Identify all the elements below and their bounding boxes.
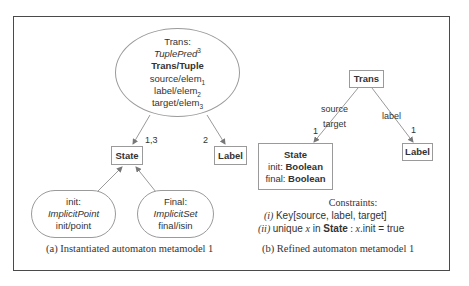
final-node-pred: ImplicitSet [154,208,198,220]
edge-mult-state: 1 [313,126,318,136]
trans-node-pred: TuplePred3 [154,48,201,60]
trans-node-row-label: label/elem2 [154,85,201,97]
constraints-title: Constraints: [258,196,448,209]
trans-box-b: Trans [349,70,384,88]
state-box-b-title: State [284,149,307,161]
trans-node-name: Trans: [164,36,191,48]
state-box-a: State [111,146,143,165]
edge-b-trans-state [314,88,358,142]
label-box-a: Label [214,146,247,165]
init-node-name: init: [66,196,81,208]
state-box-b: State init: Boolean final: Boolean [258,143,333,190]
init-implicitpoint-node: init: ImplicitPoint init/point [31,190,116,238]
edge-label-2: 2 [203,135,208,145]
init-node-mapping: init/point [56,220,91,232]
final-node-mapping: final/isin [158,220,192,232]
final-node-name: Final: [164,196,187,208]
final-implicitset-node: Final: ImplicitSet final/isin [137,190,214,238]
edge-role-target: target [323,119,346,129]
edge-label-1-3: 1,3 [145,135,158,145]
edge-mult-label: 1 [411,125,416,135]
constraint-i: (i) Key[source, label, target] [258,209,448,222]
trans-node-row-source: source/elem1 [150,73,205,85]
edge-role-label: label [382,111,401,121]
init-node-pred: ImplicitPoint [48,208,99,220]
label-box-b: Label [402,143,433,161]
trans-tuplepred-node: Trans: TuplePred3 Trans/Tuple source/ele… [115,28,240,117]
edge-role-source: source [321,104,348,114]
edge-final-state [136,167,156,192]
state-attr-final: final: Boolean [265,173,325,185]
edge-trans-label [207,115,225,144]
caption-a: (a) Instantiated automaton metamodel 1 [46,243,213,254]
caption-b: (b) Refined automaton metamodel 1 [262,243,414,254]
constraint-ii: (ii) unique x in State : x.init = true [258,222,448,235]
constraints-block: Constraints: (i) Key[source, label, targ… [258,196,448,235]
state-attr-init: init: Boolean [268,161,323,173]
trans-node-mapping: Trans/Tuple [151,60,204,72]
trans-node-row-target: target/elem3 [152,97,203,109]
edge-init-state [96,167,122,193]
